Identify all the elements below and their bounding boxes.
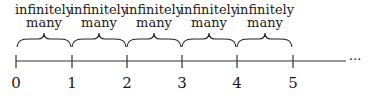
- braces: [17, 33, 292, 47]
- tick-label-4: 4: [227, 74, 247, 92]
- tick-label-2: 2: [117, 74, 137, 92]
- interval-label-line2: many: [230, 16, 300, 29]
- tick-label-1: 1: [62, 74, 82, 92]
- tick-label-5: 5: [283, 74, 303, 92]
- brace-0-1: [17, 33, 71, 47]
- continuation-ellipsis: ···: [349, 52, 361, 67]
- interval-label-4-5: infinitely many: [230, 3, 300, 29]
- brace-1-2: [72, 33, 126, 47]
- brace-4-5: [237, 33, 292, 47]
- brace-2-3: [127, 33, 181, 47]
- brace-3-4: [182, 33, 236, 47]
- tick-label-3: 3: [172, 74, 192, 92]
- tick-label-0: 0: [6, 74, 26, 92]
